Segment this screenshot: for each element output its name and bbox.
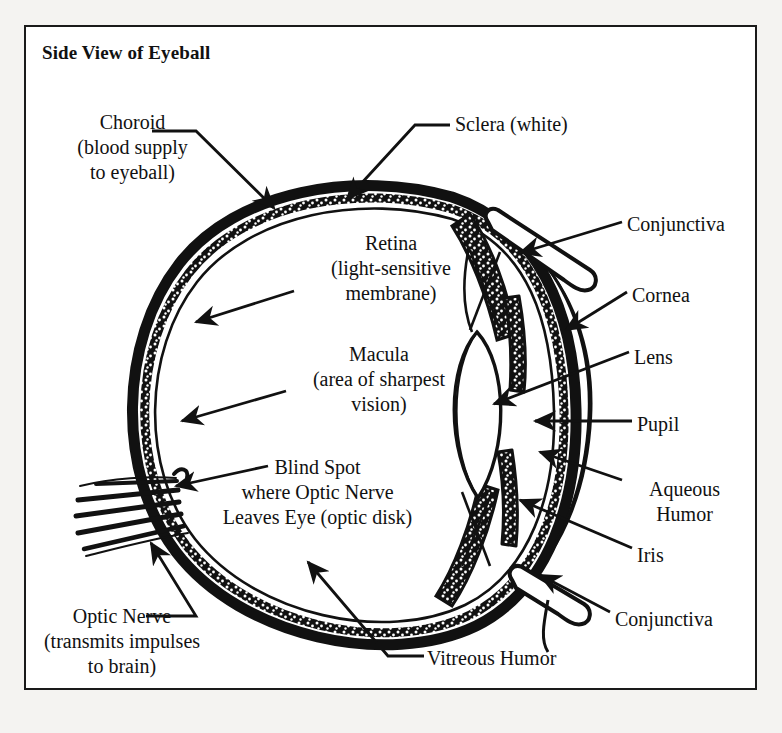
label-lens: Lens (634, 345, 734, 370)
label-cornea: Cornea (632, 283, 752, 308)
leader-retina (196, 291, 294, 322)
label-choroid: Choroid (blood supply to eyeball) (45, 110, 220, 185)
leader-macula (182, 391, 286, 421)
label-conjunctiva-top: Conjunctiva (627, 212, 767, 237)
label-sclera: Sclera (white) (455, 112, 635, 137)
iris-upper (505, 296, 525, 392)
label-blind-spot: Blind Spot where Optic Nerve Leaves Eye … (200, 455, 435, 530)
label-iris: Iris (637, 543, 727, 568)
page-background: Side View of Eyeball (0, 0, 782, 733)
conjunctiva-lower-tail (543, 600, 548, 652)
label-macula: Macula (area of sharpest vision) (284, 342, 474, 417)
label-aqueous-humor: Aqueous Humor (627, 477, 742, 527)
label-optic-nerve: Optic Nerve (transmits impulses to brain… (22, 604, 222, 679)
label-vitreous-humor: Vitreous Humor (427, 646, 607, 671)
leader-cornea (566, 292, 627, 330)
label-pupil: Pupil (637, 412, 737, 437)
iris-lower (498, 450, 517, 546)
label-conjunctiva-bottom: Conjunctiva (615, 607, 755, 632)
label-retina: Retina (light-sensitive membrane) (296, 231, 486, 306)
